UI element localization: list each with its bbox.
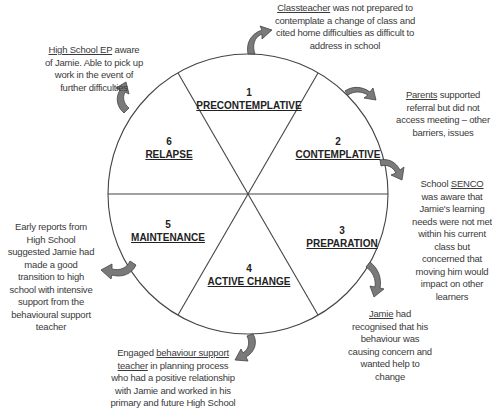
stage-5-maintenance: 5 MAINTENANCE: [131, 218, 205, 244]
note-classteacher: Classteacher was not prepared to contemp…: [270, 2, 420, 52]
stage-6-relapse: 6 RELAPSE: [145, 135, 192, 161]
note-text: had recognised that his behaviour was ca…: [348, 308, 432, 382]
note-senco: School SENCO was aware that Jamie's lear…: [412, 178, 492, 303]
note-high-school-ep: High School EP aware of Jamie. Able to p…: [44, 44, 144, 94]
note-text: Early reports from High School suggested…: [8, 221, 95, 332]
stage-name: CONTEMPLATIVE: [296, 148, 381, 161]
note-parents: Parents supported referral but did not a…: [394, 89, 492, 139]
note-behaviour-support-teacher: Engaged behaviour support teacher in pla…: [110, 347, 236, 408]
stage-number: 4: [208, 262, 291, 275]
stage-number: 5: [131, 218, 205, 231]
stage-3-preparation: 3 PREPARATION: [306, 224, 377, 250]
arrow-icon-behaviour-teacher: [235, 334, 255, 361]
note-subject: High School EP: [49, 44, 113, 55]
stage-number: 3: [306, 224, 377, 237]
stage-4-active-change: 4 ACTIVE CHANGE: [208, 262, 291, 288]
note-subject: SENCO: [451, 178, 484, 189]
note-subject: Parents: [406, 89, 437, 100]
stage-name: RELAPSE: [145, 148, 192, 161]
note-subject: Classteacher: [277, 2, 330, 13]
stage-name: PRECONTEMPLATIVE: [196, 99, 301, 112]
stage-number: 1: [196, 86, 301, 99]
arrow-icon-classteacher: [248, 26, 272, 54]
stage-name: ACTIVE CHANGE: [208, 275, 291, 288]
note-prefix: School: [420, 178, 450, 189]
note-subject: Jamie: [369, 308, 393, 319]
stage-1-precontemplative: 1 PRECONTEMPLATIVE: [196, 86, 301, 112]
arrow-icon-jamie: [366, 262, 384, 297]
stage-number: 2: [296, 135, 381, 148]
arrow-icon-early-reports: [101, 261, 136, 279]
stage-name: PREPARATION: [306, 237, 377, 250]
note-early-reports: Early reports from High School suggested…: [6, 221, 96, 334]
note-text: was aware that Jamie's learning needs we…: [412, 191, 492, 302]
stage-name: MAINTENANCE: [131, 231, 205, 244]
note-jamie: Jamie had recognised that his behaviour …: [347, 308, 433, 383]
note-prefix: Engaged: [117, 347, 156, 358]
arrow-icon-senco: [380, 159, 404, 180]
stage-2-contemplative: 2 CONTEMPLATIVE: [296, 135, 381, 161]
stage-number: 6: [145, 135, 192, 148]
